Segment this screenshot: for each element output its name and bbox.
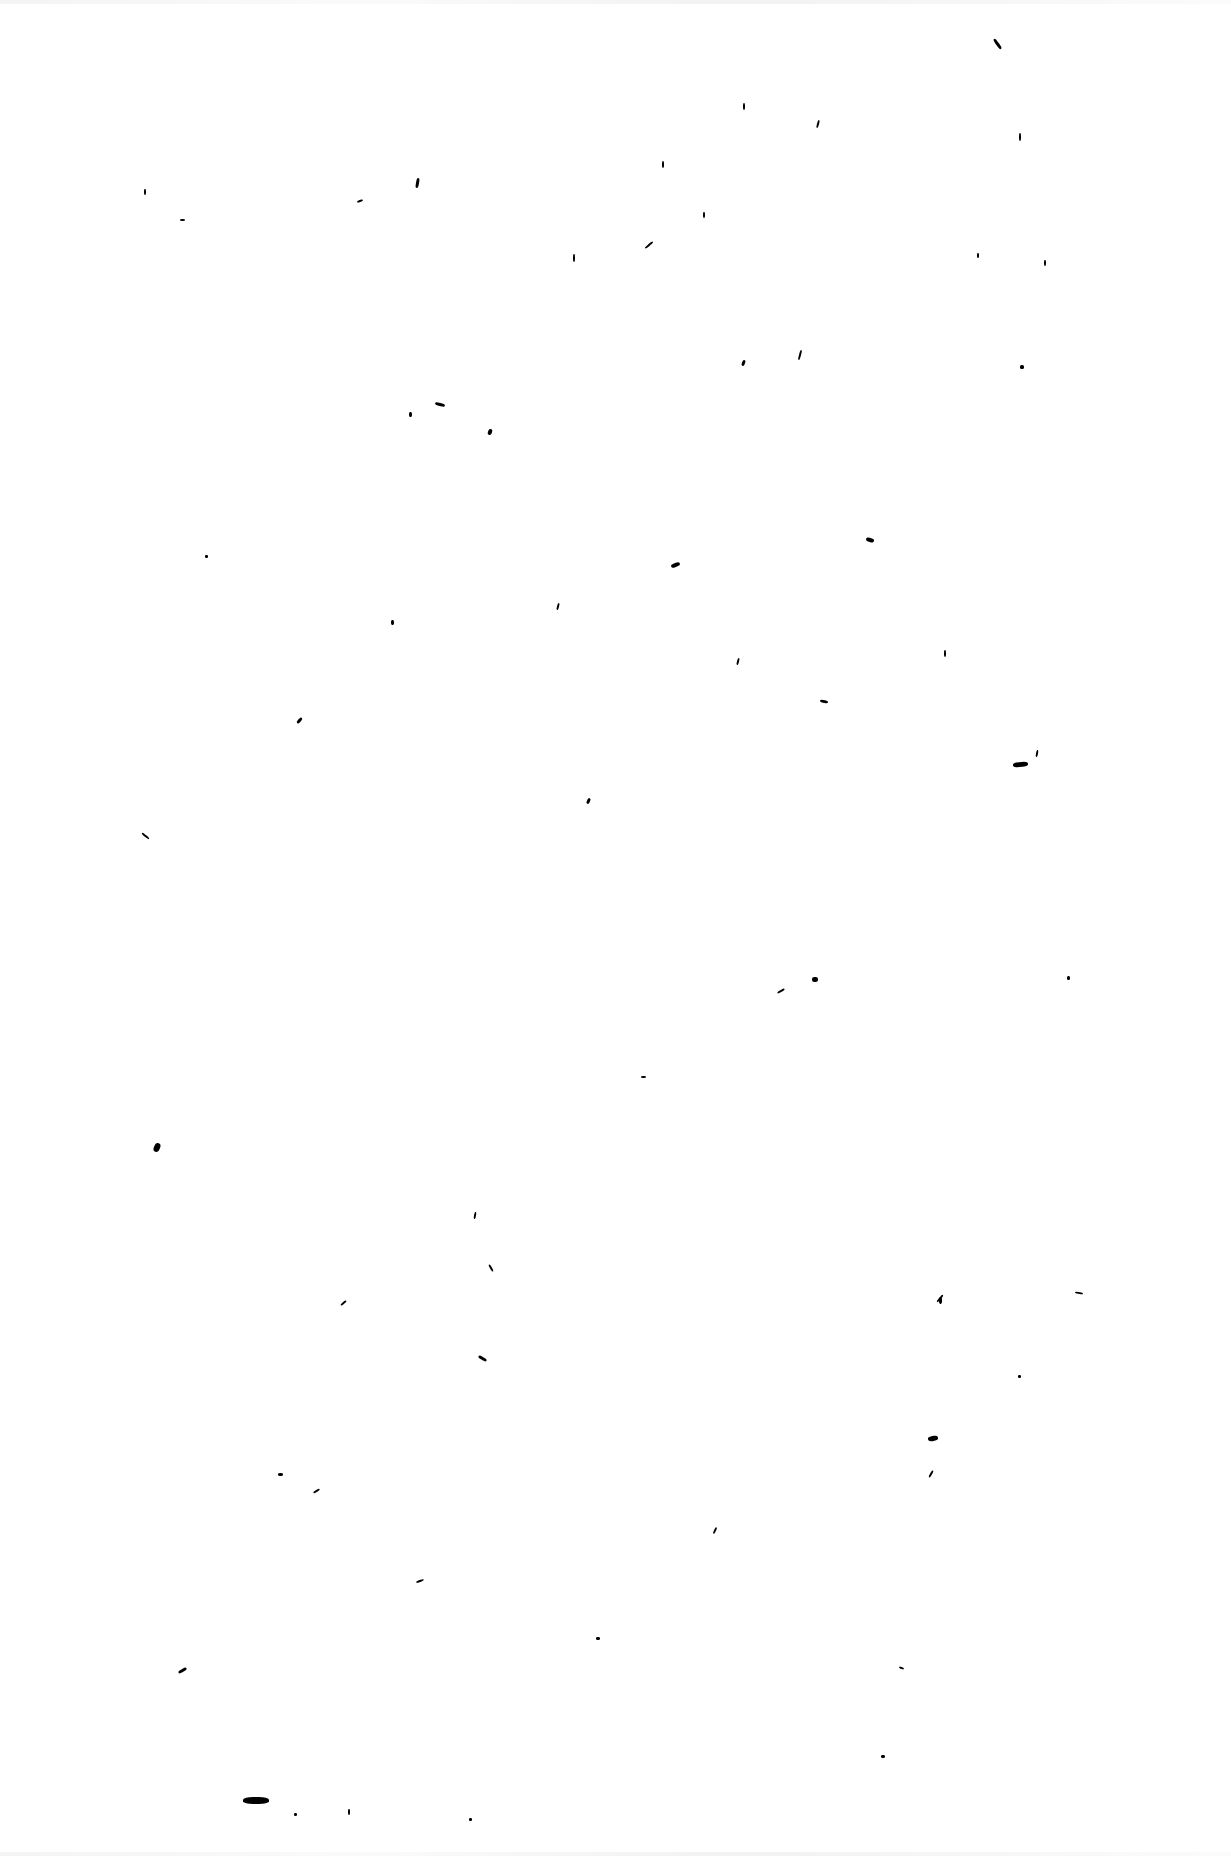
noise-speck [473, 1212, 476, 1219]
noise-speck [141, 832, 149, 839]
noise-speck [741, 360, 746, 367]
noise-speck [1067, 976, 1070, 980]
noise-speck [645, 241, 654, 249]
scan-edge-top [0, 0, 1231, 4]
noise-speck [243, 1797, 269, 1804]
noise-speck [487, 428, 493, 435]
noise-speck [928, 1435, 939, 1442]
noise-speck [820, 699, 828, 703]
noise-speck [180, 219, 185, 221]
noise-speck [340, 1300, 347, 1306]
noise-speck [977, 253, 979, 258]
noise-speck [178, 1667, 187, 1674]
noise-speck [596, 1637, 600, 1640]
noise-speck [671, 562, 681, 569]
noise-speck [1019, 133, 1021, 141]
noise-speck [899, 1666, 904, 1670]
blank-scanned-page: Blank scanned page with scattered scanne… [0, 0, 1231, 1856]
noise-speck [703, 212, 705, 218]
noise-speck [357, 199, 363, 203]
noise-speck [469, 1818, 472, 1821]
noise-speck [278, 1473, 283, 1476]
noise-speck [416, 1579, 424, 1584]
noise-speck [713, 1527, 718, 1534]
noise-speck [1018, 1375, 1021, 1378]
noise-speck [798, 350, 803, 360]
noise-speck [816, 120, 820, 128]
noise-speck [144, 189, 146, 195]
noise-speck [1044, 260, 1046, 266]
noise-speck [944, 650, 946, 657]
noise-speck [928, 1470, 934, 1478]
noise-speck [294, 1813, 297, 1816]
noise-speck [409, 412, 412, 417]
noise-speck [1075, 1291, 1083, 1294]
noise-speck [1035, 750, 1038, 757]
noise-speck [736, 658, 740, 665]
noise-speck [743, 103, 745, 110]
noise-speck [1013, 761, 1028, 767]
noise-speck [153, 1142, 162, 1153]
noise-speck [641, 1076, 646, 1078]
noise-speck [1020, 365, 1024, 369]
noise-speck [939, 1297, 942, 1304]
noise-speck [391, 620, 394, 625]
scan-edge-bottom [0, 1852, 1231, 1856]
noise-speck [296, 717, 303, 724]
noise-speck [662, 161, 664, 168]
noise-speck [866, 537, 875, 543]
noise-speck [573, 254, 575, 262]
noise-speck [881, 1755, 885, 1758]
noise-speck [586, 798, 591, 805]
noise-speck [777, 988, 785, 994]
noise-speck [488, 1264, 494, 1272]
noise-speck [313, 1488, 320, 1493]
noise-speck [478, 1355, 487, 1362]
noise-speck [812, 977, 818, 982]
noise-speck [205, 555, 208, 558]
noise-speck [415, 178, 420, 188]
noise-speck [348, 1809, 350, 1815]
noise-speck [435, 402, 445, 407]
noise-speck [556, 603, 560, 610]
noise-speck [993, 38, 1002, 50]
